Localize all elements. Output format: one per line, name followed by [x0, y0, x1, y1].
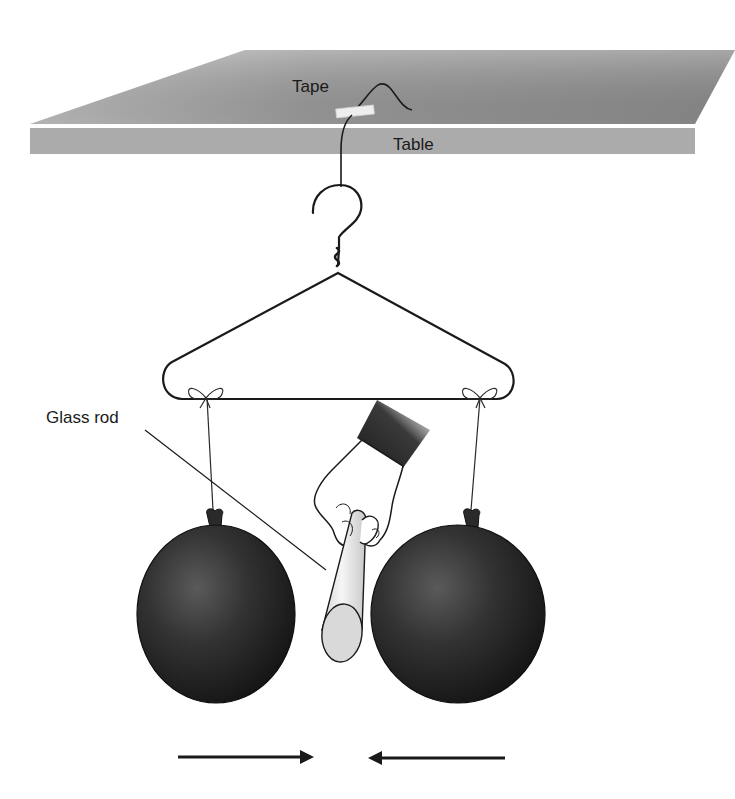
- arrow-right: [178, 750, 314, 764]
- arrow-left: [368, 751, 505, 765]
- left-balloon: [137, 509, 295, 703]
- right-balloon: [371, 509, 545, 703]
- table-edge-highlight: [30, 124, 695, 128]
- tape-label: Tape: [292, 77, 329, 96]
- left-string: [188, 388, 222, 510]
- table-front-edge: [30, 128, 695, 154]
- table-label: Table: [393, 135, 434, 154]
- charged-balloons-diagram: Tape Table Glass rod: [0, 0, 735, 799]
- balloon-knot: [207, 509, 223, 527]
- hanger-body: [163, 273, 513, 399]
- coat-hanger: [163, 185, 513, 399]
- right-string: [462, 388, 496, 510]
- balloon-knot: [464, 509, 480, 527]
- glass-rod-label: Glass rod: [46, 408, 119, 427]
- table: [30, 50, 735, 154]
